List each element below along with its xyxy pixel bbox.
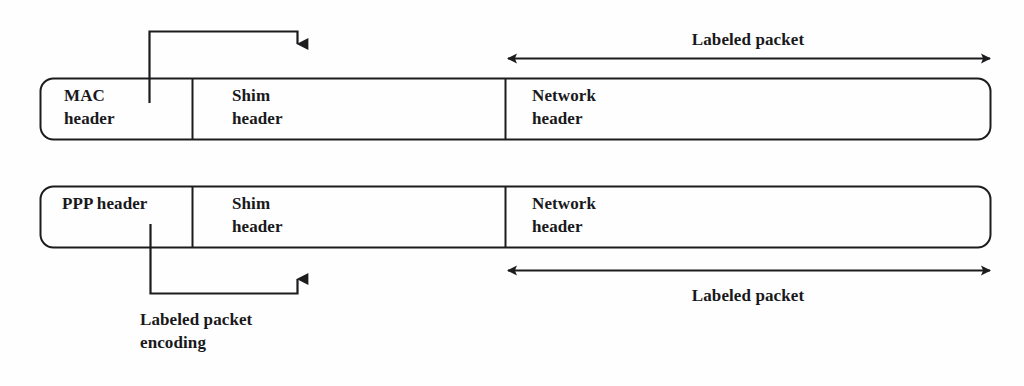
ppp-header-label: PPP header (62, 192, 148, 215)
diagram-canvas: MAC header Shim header Network header La… (0, 0, 1024, 386)
top-labeled-packet-label: Labeled packet (548, 28, 948, 51)
ppp-row-bar (41, 187, 991, 248)
mac-row-outline (41, 79, 991, 140)
network-header-top-label: Network header (532, 84, 596, 130)
ppp-row-outline (41, 187, 991, 248)
bottom-labeled-packet-label: Labeled packet (548, 284, 948, 307)
mac-row-bar (41, 79, 991, 140)
network-header-bottom-label: Network header (532, 192, 596, 238)
encoding-callout-label: Labeled packet encoding (140, 308, 252, 354)
shim-header-bottom-label: Shim header (232, 192, 283, 238)
shim-header-top-label: Shim header (232, 84, 283, 130)
mac-header-label: MAC header (64, 84, 115, 130)
